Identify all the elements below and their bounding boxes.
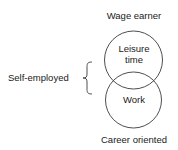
upper-circle-label: Leisure time: [110, 43, 158, 65]
venn-diagram: Wage earner Leisure time Work Self-emplo…: [0, 0, 178, 150]
top-label-wage-earner: Wage earner: [103, 10, 165, 21]
lower-circle-label: Work: [110, 94, 158, 105]
upper-circle-label-line-2: time: [110, 54, 158, 65]
side-label-self-employed: Self-employed: [8, 72, 69, 83]
curly-brace-icon: [83, 62, 92, 94]
upper-circle-label-line-1: Leisure: [110, 43, 158, 54]
bottom-label-career-oriented: Career oriented: [95, 134, 173, 145]
